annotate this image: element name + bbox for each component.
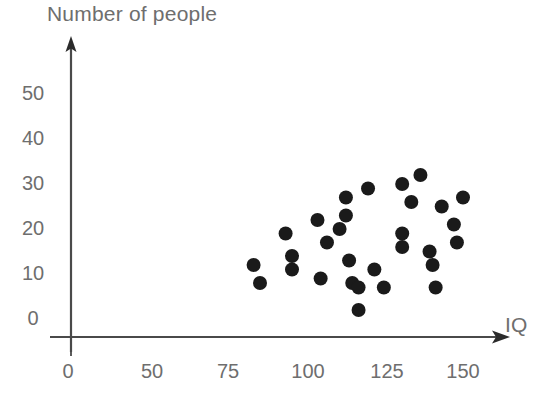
data-point	[367, 263, 381, 277]
data-point	[320, 236, 334, 250]
data-point	[404, 195, 418, 209]
data-point	[395, 227, 409, 241]
data-point	[447, 218, 461, 232]
data-point	[361, 182, 375, 196]
data-point	[423, 245, 437, 259]
data-point-group	[247, 168, 470, 317]
axis-lines	[50, 36, 510, 356]
data-point	[377, 281, 391, 295]
data-point	[342, 254, 356, 268]
scatter-plot-figure: Number of people IQ 05075100125150 01020…	[0, 0, 544, 393]
data-point	[413, 168, 427, 182]
data-point	[435, 200, 449, 214]
data-point	[285, 263, 299, 277]
data-point	[253, 276, 267, 290]
data-point	[285, 249, 299, 263]
data-point	[339, 209, 353, 223]
x-tick-label: 0	[62, 360, 73, 383]
data-point	[456, 191, 470, 205]
x-tick-label: 100	[291, 360, 324, 383]
y-tick-label: 20	[22, 217, 44, 240]
y-tick-label: 0	[27, 307, 38, 330]
data-point	[426, 258, 440, 272]
data-point	[395, 240, 409, 254]
plot-canvas	[0, 0, 544, 393]
data-point	[339, 191, 353, 205]
data-point	[247, 258, 261, 272]
x-tick-label: 75	[217, 360, 239, 383]
x-tick-label: 150	[446, 360, 479, 383]
x-tick-label: 50	[141, 360, 163, 383]
data-point	[352, 281, 366, 295]
data-point	[352, 303, 366, 317]
data-point	[333, 222, 347, 236]
x-tick-label: 125	[370, 360, 403, 383]
data-point	[429, 281, 443, 295]
y-tick-label: 40	[22, 127, 44, 150]
data-point	[310, 213, 324, 227]
y-tick-label: 50	[22, 82, 44, 105]
data-point	[395, 177, 409, 191]
y-tick-label: 10	[22, 262, 44, 285]
data-point	[279, 227, 293, 241]
data-point	[450, 236, 464, 250]
data-point	[314, 272, 328, 286]
y-tick-label: 30	[22, 172, 44, 195]
